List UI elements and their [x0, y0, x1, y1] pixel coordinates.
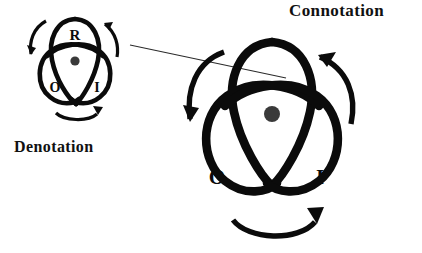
denotation-letter-bottom-right: I [94, 80, 99, 95]
denotation-knot: R O I [27, 19, 118, 120]
denotation-label: Denotation [14, 138, 94, 156]
connotation-knot-arrows [189, 52, 353, 236]
denotation-letter-top: R [70, 27, 81, 43]
denotation-center-dot [70, 56, 79, 65]
arrowhead-left-icon [183, 105, 199, 122]
arc-bottom-icon [56, 113, 97, 120]
semiotic-knot-diagram: R O I [0, 0, 422, 253]
connotation-letter-bottom-left: O [209, 165, 225, 189]
figure-canvas: R O I [0, 0, 422, 253]
arc-bottom-icon [233, 220, 315, 236]
arrowhead-bottom-icon [93, 106, 103, 115]
connotation-letter-bottom-right: I [316, 165, 324, 189]
arrowhead-left-icon [27, 45, 36, 55]
denotation-letter-bottom-left: O [50, 80, 61, 95]
arc-right-icon [105, 24, 118, 57]
arrowhead-bottom-icon [307, 207, 324, 224]
connotation-center-dot [264, 106, 280, 122]
connotation-label: Connotation [289, 1, 384, 21]
connotation-knot: O I [183, 42, 353, 236]
